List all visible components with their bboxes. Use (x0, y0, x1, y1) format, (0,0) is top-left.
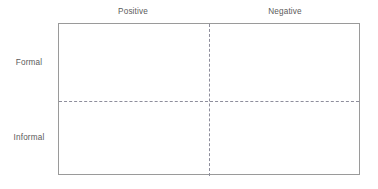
matrix-box (58, 23, 360, 175)
quadrant-formal-positive[interactable] (59, 24, 209, 101)
column-label-positive: Positive (97, 6, 169, 18)
quadrant-informal-positive[interactable] (59, 102, 209, 174)
row-label-formal: Formal (4, 57, 54, 69)
quadrant-diagram: Positive Negative Formal Informal (0, 0, 378, 189)
quadrant-informal-negative[interactable] (210, 102, 359, 174)
column-label-negative: Negative (249, 6, 321, 18)
row-label-informal: Informal (4, 132, 54, 144)
horizontal-divider-line (59, 101, 359, 102)
vertical-divider-line (209, 24, 210, 176)
quadrant-formal-negative[interactable] (210, 24, 359, 101)
